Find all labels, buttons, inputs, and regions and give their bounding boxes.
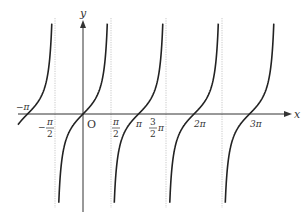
tan-branch: [170, 24, 219, 203]
tick-three-half-pi-num: 3: [150, 117, 156, 127]
tick-neg-pi: −π: [16, 102, 31, 112]
tick-three-half-pi-pi: π: [157, 123, 165, 133]
tan-graph: x y O −π − π 2 π 2 π 3 2 π 2π 3π: [0, 0, 303, 220]
x-axis-arrow-icon: [284, 111, 292, 117]
y-axis-arrow-icon: [80, 20, 86, 28]
tick-neg-half-pi-den: 2: [47, 129, 53, 139]
x-axis-label: x: [294, 108, 301, 121]
tick-neg-half-pi-num: π: [46, 117, 54, 127]
origin-label: O: [87, 118, 96, 131]
tan-branch: [225, 24, 274, 203]
tan-branch: [114, 24, 163, 203]
y-axis-label: y: [79, 7, 87, 20]
tick-pi: π: [135, 119, 143, 129]
tick-neg-half-pi-sign: −: [38, 122, 46, 132]
tick-half-pi-num: π: [112, 117, 120, 127]
tick-two-pi: 2π: [193, 119, 207, 129]
tick-three-half-pi-den: 2: [150, 129, 156, 139]
tan-curves: [18, 24, 274, 203]
tick-three-pi: 3π: [250, 119, 263, 129]
tick-half-pi-den: 2: [113, 129, 119, 139]
